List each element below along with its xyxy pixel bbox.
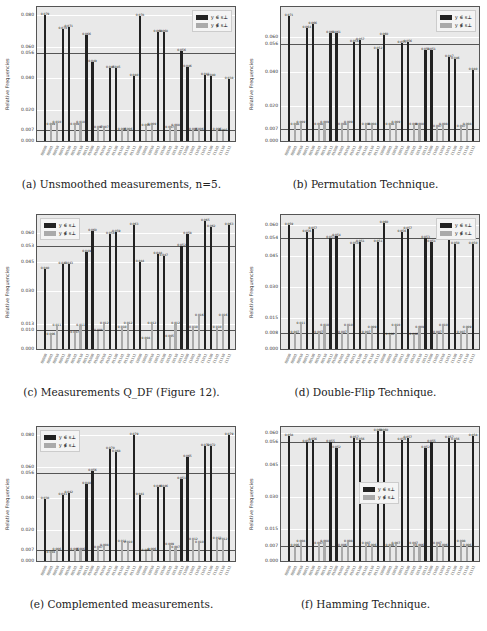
bar-not-in-subspace [121, 130, 123, 141]
bar-not-in-subspace [418, 546, 420, 561]
bar-value-label: 0.051 [427, 47, 436, 51]
bar-not-in-subspace [347, 123, 349, 141]
bar-value-label: 0.005 [165, 334, 174, 338]
bar-not-in-subspace [97, 128, 99, 141]
bar-not-in-subspace [198, 130, 200, 141]
chart-panel-e: Relative Frequencies0.0000.0070.0200.040… [0, 420, 243, 630]
bar-not-in-subspace [418, 125, 420, 141]
y-tick-label: 0.060 [265, 430, 278, 435]
bar-value-label: 0.064 [302, 25, 311, 29]
bar-value-label: 0.007 [338, 330, 347, 334]
bar-value-label: 0.059 [285, 222, 294, 226]
bar-in-subspace [85, 35, 87, 141]
gridline [37, 561, 235, 562]
legend-label: y ∈ s⊥ [59, 434, 76, 440]
bar-not-in-subspace [389, 125, 391, 141]
bar-value-label: 0.012 [171, 321, 180, 325]
bar-in-subspace [180, 479, 182, 561]
bar-value-label: 0.010 [392, 323, 401, 327]
bar-not-in-subspace [222, 316, 224, 349]
bar-in-subspace [407, 42, 409, 141]
bar-not-in-subspace [341, 333, 343, 349]
bar-not-in-subspace [56, 550, 58, 561]
bar-value-label: 0.047 [159, 253, 168, 257]
y-tick-label: 0.080 [21, 12, 34, 17]
legend-entry-out: y ∉ s⊥ [44, 229, 76, 237]
x-axis-labels: 0000000001000100001100100001010011000111… [280, 143, 480, 165]
legend: y ∈ s⊥y ∉ s⊥ [192, 10, 232, 32]
bar-in-subspace [210, 227, 212, 349]
chart-panel-b: Relative Frequencies0.0000.0070.0200.040… [244, 0, 487, 210]
bar-value-label: 0.040 [469, 67, 478, 71]
y-tick-label: 0.000 [265, 346, 278, 351]
bar-value-label: 0.046 [451, 56, 460, 60]
y-tick-label: 0.054 [265, 234, 278, 239]
bar-value-label: 0.009 [297, 120, 306, 124]
bar-in-subspace [329, 442, 331, 561]
legend: y ∈ s⊥y ∉ s⊥ [359, 482, 399, 504]
plot-area: 0.0580.0060.0080.0550.0560.0070.0080.055… [280, 426, 480, 562]
bar-in-subspace [109, 68, 111, 141]
bar-not-in-subspace [442, 546, 444, 561]
bar-in-subspace [377, 49, 379, 141]
bar-not-in-subspace [395, 544, 397, 561]
bar-value-label: 0.007 [433, 330, 442, 334]
bar-in-subspace [62, 495, 64, 561]
bar-not-in-subspace [216, 328, 218, 349]
bar-not-in-subspace [442, 125, 444, 141]
y-tick-label: 0.053 [21, 243, 34, 248]
bar-value-label: 0.063 [130, 222, 139, 226]
bar-not-in-subspace [145, 339, 147, 349]
bar-value-label: 0.071 [285, 13, 294, 17]
x-axis-labels: 0000000001000100001100100001010011000111… [36, 563, 236, 585]
bar-not-in-subspace [466, 125, 468, 141]
bar-in-subspace [133, 435, 135, 561]
y-tick-label: 0.030 [265, 494, 278, 499]
bar-value-label: 0.052 [421, 445, 430, 449]
bar-value-label: 0.068 [159, 29, 168, 33]
bar-value-label: 0.006 [124, 127, 133, 131]
chart-panel-f: Relative Frequencies0.0000.0070.0150.030… [244, 420, 487, 630]
bar-value-label: 0.065 [201, 218, 210, 222]
gridline [281, 141, 479, 142]
bar-not-in-subspace [127, 543, 129, 561]
bar-value-label: 0.012 [219, 537, 228, 541]
bar-value-label: 0.056 [88, 468, 97, 472]
bar-value-label: 0.056 [177, 48, 186, 52]
bar-not-in-subspace [74, 333, 76, 349]
bar-not-in-subspace [341, 125, 343, 141]
bar-in-subspace [353, 42, 355, 141]
y-tick-label: 0.040 [21, 495, 34, 500]
bar-not-in-subspace [442, 326, 444, 349]
plot-area: 0.0380.0040.0060.0410.0420.0060.0060.048… [36, 426, 236, 562]
bar-not-in-subspace [216, 539, 218, 561]
bar-value-label: 0.059 [112, 229, 121, 233]
bar-value-label: 0.049 [82, 249, 91, 253]
bar-in-subspace [401, 440, 403, 561]
bar-not-in-subspace [300, 324, 302, 349]
bar-in-subspace [186, 457, 188, 561]
y-axis-label: Relative Frequencies [4, 478, 10, 530]
bar-value-label: 0.056 [403, 39, 412, 43]
bar-not-in-subspace [365, 125, 367, 141]
y-axis-label: Relative Frequencies [248, 58, 254, 110]
y-tick-label: 0.008 [265, 329, 278, 334]
bar-value-label: 0.007 [392, 541, 401, 545]
bar-value-label: 0.046 [159, 484, 168, 488]
bar-not-in-subspace [174, 548, 176, 561]
bar-value-label: 0.058 [183, 231, 192, 235]
bar-value-label: 0.055 [427, 439, 436, 443]
bar-not-in-subspace [127, 324, 129, 349]
bar-not-in-subspace [318, 125, 320, 141]
bar-in-subspace [62, 264, 64, 349]
bar-not-in-subspace [300, 123, 302, 141]
bar-in-subspace [62, 29, 64, 141]
bar-not-in-subspace [371, 125, 373, 141]
bar-value-label: 0.016 [195, 313, 204, 317]
y-tick-label: 0.060 [21, 229, 34, 234]
bar-value-label: 0.006 [368, 543, 377, 547]
bar-value-label: 0.066 [308, 21, 317, 25]
bar-in-subspace [133, 76, 135, 141]
gridline [37, 349, 235, 350]
bar-value-label: 0.006 [195, 127, 204, 131]
